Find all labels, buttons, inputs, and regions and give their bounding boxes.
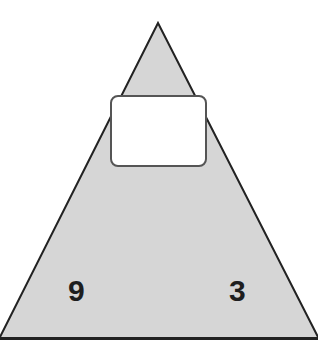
bottom-right-number: 3 [229,276,246,306]
answer-box[interactable] [110,95,207,167]
bottom-left-number: 9 [68,276,85,306]
triangle-shape [0,0,318,343]
